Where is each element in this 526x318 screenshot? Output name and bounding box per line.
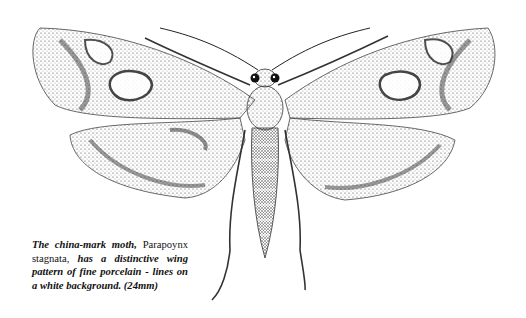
- thorax: [247, 86, 283, 130]
- caption-size: (24mm): [121, 280, 158, 291]
- abdomen: [252, 128, 279, 258]
- head: [251, 69, 280, 87]
- caption-title: The china-mark moth,: [32, 239, 137, 250]
- right-forewing: [285, 28, 495, 119]
- right-hindwing: [285, 118, 455, 200]
- left-hindwing: [70, 118, 245, 198]
- figure-caption: The china-mark moth, Parapoynx stagnata,…: [32, 238, 188, 292]
